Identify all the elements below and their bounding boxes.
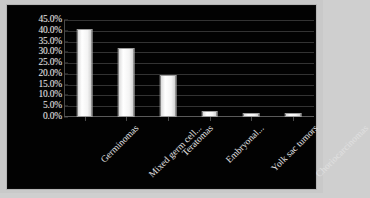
x-axis-category-label: Germinomas bbox=[100, 124, 141, 165]
y-axis-tick-label: 0.0% bbox=[43, 112, 62, 122]
bar-series bbox=[64, 20, 314, 117]
y-axis-tick-label: 10.0% bbox=[38, 91, 62, 101]
x-axis-labels: GerminomasMixed germ cell...TeratomasEmb… bbox=[64, 118, 314, 198]
bar[interactable] bbox=[118, 48, 135, 117]
bar[interactable] bbox=[77, 29, 94, 117]
plot-area bbox=[64, 20, 314, 117]
y-axis-tick-label: 30.0% bbox=[38, 48, 62, 58]
bar[interactable] bbox=[160, 75, 177, 117]
y-axis-tick-label: 20.0% bbox=[38, 69, 62, 79]
y-axis-tick-label: 25.0% bbox=[38, 58, 62, 68]
bar-slot bbox=[272, 20, 314, 117]
y-axis-tick-label: 5.0% bbox=[43, 101, 62, 111]
x-axis-category-label: Choriocarcinomas bbox=[314, 124, 370, 180]
bar-slot bbox=[106, 20, 148, 117]
y-axis: 0.0%5.0%10.0%15.0%20.0%25.0%30.0%35.0%40… bbox=[22, 20, 64, 117]
chart-canvas: 0.0%5.0%10.0%15.0%20.0%25.0%30.0%35.0%40… bbox=[7, 5, 316, 189]
x-axis-category-label: Mixed germ cell... bbox=[147, 124, 203, 180]
y-axis-tick-label: 40.0% bbox=[38, 26, 62, 36]
x-axis-category-label: Embryonal... bbox=[225, 124, 267, 166]
x-axis-category-label: Yolk sac tumors bbox=[270, 124, 320, 174]
bar-slot bbox=[147, 20, 189, 117]
bar-slot bbox=[189, 20, 231, 117]
y-axis-tick-label: 35.0% bbox=[38, 37, 62, 47]
y-axis-tick-label: 15.0% bbox=[38, 80, 62, 90]
y-axis-tick-label: 45.0% bbox=[38, 15, 62, 25]
bar-slot bbox=[231, 20, 273, 117]
bar-slot bbox=[64, 20, 106, 117]
